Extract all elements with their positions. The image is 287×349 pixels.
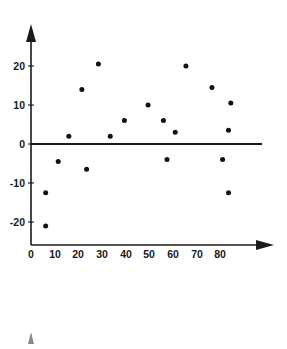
data-point [161, 118, 166, 123]
x-tick-label: 20 [72, 248, 84, 260]
scatter-plot-svg: -20 -10 0 10 20 0 10 20 30 40 50 60 70 8… [0, 0, 287, 349]
x-tick-label: 80 [214, 248, 226, 260]
data-point [56, 159, 61, 164]
data-point [79, 87, 84, 92]
data-point [173, 130, 178, 135]
y-axis-tick-labels: -20 -10 0 10 20 [10, 60, 25, 228]
y-tick-label: 20 [13, 60, 25, 72]
data-point [146, 103, 151, 108]
y-tick-label: 0 [19, 138, 25, 150]
data-point [209, 85, 214, 90]
data-point [183, 64, 188, 69]
y-axis-group [26, 24, 36, 245]
data-point [66, 134, 71, 139]
y-tick-label: -20 [10, 216, 25, 228]
data-point [43, 190, 48, 195]
secondary-axis-group [28, 332, 34, 344]
y-axis-arrow-icon [26, 24, 36, 42]
x-tick-label: 50 [143, 248, 155, 260]
y-tick-label: 10 [13, 99, 25, 111]
data-point [226, 190, 231, 195]
data-point [220, 157, 225, 162]
data-point [164, 157, 169, 162]
scatter-plot-figure: -20 -10 0 10 20 0 10 20 30 40 50 60 70 8… [0, 0, 287, 349]
x-axis-arrow-icon [256, 240, 274, 250]
data-point [108, 134, 113, 139]
data-point [43, 223, 48, 228]
x-axis-tick-labels: 0 10 20 30 40 50 60 70 80 [28, 248, 226, 260]
y-tick-label: -10 [10, 177, 25, 189]
x-tick-label: 30 [96, 248, 108, 260]
x-tick-label: 40 [120, 248, 132, 260]
data-point [226, 128, 231, 133]
x-tick-label: 60 [167, 248, 179, 260]
x-tick-label: 0 [28, 248, 34, 260]
x-tick-label: 70 [191, 248, 203, 260]
x-tick-label: 10 [49, 248, 61, 260]
secondary-y-axis-arrow-icon [28, 332, 34, 344]
data-point [96, 62, 101, 67]
data-point [228, 101, 233, 106]
data-point [84, 167, 89, 172]
data-point [122, 118, 127, 123]
